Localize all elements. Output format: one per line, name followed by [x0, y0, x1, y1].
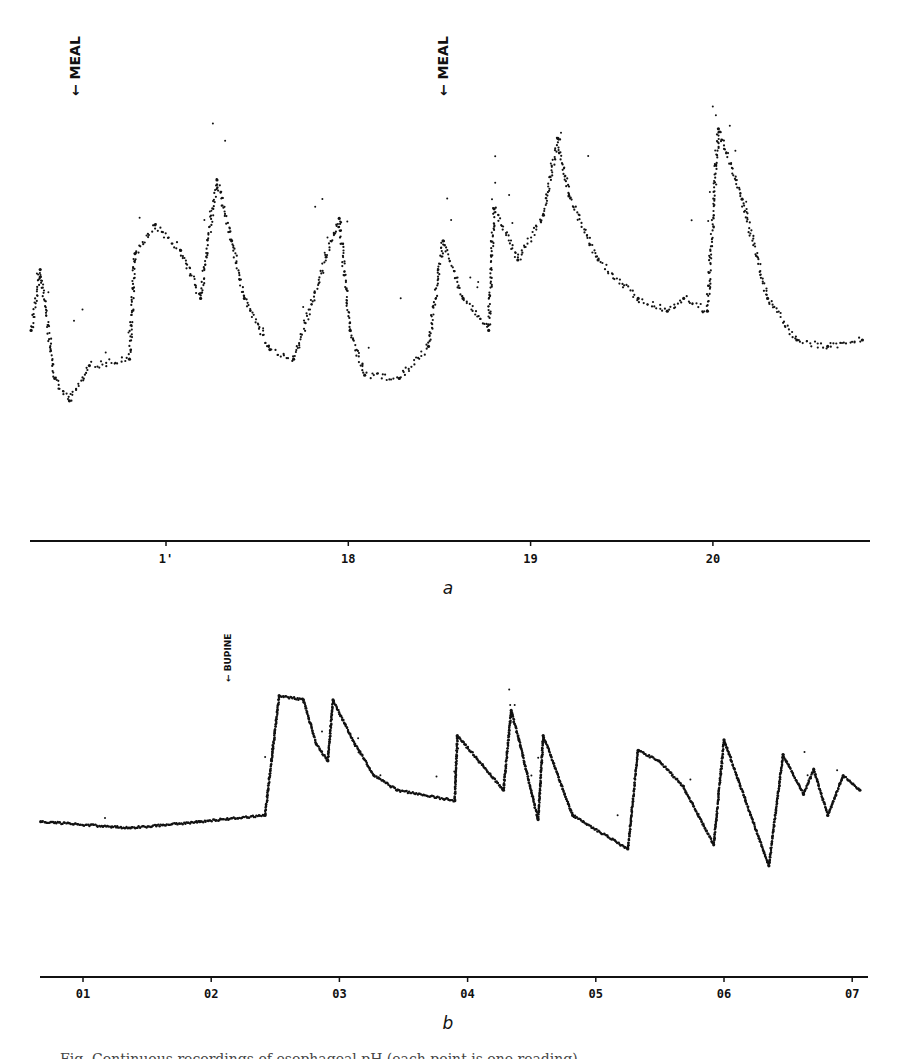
trace-dot — [814, 341, 816, 343]
x-tick-label: 06 — [717, 987, 731, 1001]
outlier-dot — [508, 194, 510, 196]
trace-dot — [295, 349, 297, 351]
trace-dot — [131, 299, 133, 301]
trace-dot — [456, 749, 458, 751]
trace-dot — [538, 804, 540, 806]
trace-dot — [822, 798, 824, 800]
trace-dot — [432, 306, 434, 308]
trace-dot — [274, 725, 276, 727]
trace-dot — [534, 807, 536, 809]
trace-dot — [346, 296, 348, 298]
trace-dot — [492, 242, 494, 244]
trace-dot — [709, 262, 711, 264]
trace-dot — [541, 747, 543, 749]
trace-dot — [557, 141, 559, 143]
trace-dot — [33, 313, 35, 315]
trace-dot — [30, 325, 32, 327]
trace-dot — [185, 267, 187, 269]
trace-dot — [277, 354, 279, 356]
trace-dot — [583, 231, 585, 233]
trace-dot — [337, 709, 339, 711]
trace-dot — [514, 256, 516, 258]
trace-dot — [714, 173, 716, 175]
trace-dot — [121, 361, 123, 363]
trace-dot — [493, 222, 495, 224]
trace-dot — [225, 215, 227, 217]
outlier-dot — [450, 219, 452, 221]
trace-dot — [405, 367, 407, 369]
trace-dot — [347, 290, 349, 292]
panel-b-annotations: ← BUPINE — [223, 634, 233, 682]
trace-dot — [718, 138, 720, 140]
trace-dot — [340, 243, 342, 245]
trace-dot — [578, 214, 580, 216]
trace-dot — [36, 295, 38, 297]
trace-dot — [264, 812, 266, 814]
trace-dot — [433, 301, 435, 303]
trace-dot — [540, 221, 542, 223]
trace-dot — [773, 306, 775, 308]
trace-dot — [739, 785, 741, 787]
outlier-dot — [321, 731, 323, 733]
trace-dot — [382, 373, 384, 375]
trace-dot — [454, 795, 456, 797]
trace-dot — [313, 296, 315, 298]
trace-dot — [530, 240, 532, 242]
trace-dot — [342, 246, 344, 248]
trace-dot — [216, 184, 218, 186]
trace-dot — [504, 779, 506, 781]
trace-dot — [255, 318, 257, 320]
trace-dot — [560, 158, 562, 160]
trace-dot — [545, 197, 547, 199]
outlier-dot — [400, 297, 402, 299]
trace-dot — [858, 337, 860, 339]
trace-dot — [130, 349, 132, 351]
trace-dot — [71, 394, 73, 396]
trace-dot — [549, 176, 551, 178]
trace-dot — [203, 277, 205, 279]
trace-dot — [343, 260, 345, 262]
trace-dot — [361, 369, 363, 371]
trace-dot — [129, 340, 131, 342]
trace-dot — [431, 315, 433, 317]
trace-dot — [438, 273, 440, 275]
outlier-dot — [324, 252, 326, 254]
trace-dot — [263, 334, 265, 336]
trace-dot — [704, 827, 706, 829]
trace-dot — [251, 312, 253, 314]
trace-dot — [51, 359, 53, 361]
trace-dot — [90, 361, 92, 363]
trace-dot — [250, 310, 252, 312]
trace-dot — [709, 283, 711, 285]
outlier-dot — [807, 774, 809, 776]
trace-dot — [724, 148, 726, 150]
trace-dot — [185, 260, 187, 262]
trace-dot — [795, 335, 797, 337]
trace-dot — [455, 753, 457, 755]
trace-dot — [328, 249, 330, 251]
trace-dot — [722, 748, 724, 750]
trace-dot — [162, 231, 164, 233]
trace-dot — [732, 765, 734, 767]
trace-dot — [448, 258, 450, 260]
trace-dot — [763, 290, 765, 292]
trace-dot — [490, 267, 492, 269]
trace-dot — [638, 301, 640, 303]
trace-dot — [768, 303, 770, 305]
trace-dot — [420, 355, 422, 357]
trace-dot — [759, 263, 761, 265]
trace-dot — [487, 315, 489, 317]
trace-dot — [565, 180, 567, 182]
trace-dot — [38, 284, 40, 286]
trace-dot — [328, 242, 330, 244]
data-point — [516, 258, 519, 261]
trace-dot — [595, 828, 597, 830]
outlier-dot — [508, 689, 510, 691]
trace-dot — [604, 268, 606, 270]
trace-dot — [331, 239, 333, 241]
trace-dot — [455, 766, 457, 768]
trace-dot — [490, 261, 492, 263]
trace-dot — [233, 248, 235, 250]
trace-dot — [750, 229, 752, 231]
trace-dot — [258, 326, 260, 328]
